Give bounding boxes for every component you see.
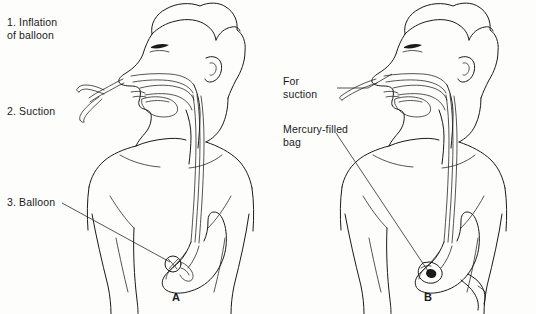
panel-letter-a: A — [172, 291, 180, 303]
face-profile-a — [119, 34, 152, 146]
panel-a-illustration — [77, 3, 254, 314]
ear-b — [458, 57, 475, 82]
label-balloon: 3. Balloon — [7, 196, 55, 209]
label-inflation-of-balloon: 1. Inflation of balloon — [7, 16, 57, 42]
torso-a — [87, 98, 253, 314]
mouth-a — [131, 91, 146, 97]
panel-letter-b: B — [424, 291, 432, 303]
leader-balloon — [62, 203, 170, 262]
airway-a — [131, 74, 200, 164]
hair-a — [152, 3, 246, 98]
medical-illustration: .ln { fill:none; stroke:#1a1a1a; stroke-… — [0, 0, 536, 314]
figure-container: .ln { fill:none; stroke:#1a1a1a; stroke-… — [0, 0, 536, 314]
panel-b-illustration — [340, 3, 507, 314]
eye-b — [403, 44, 422, 52]
label-suction: 2. Suction — [7, 105, 55, 118]
nasogastric-tube-external-a — [77, 79, 124, 122]
nasogastric-tube-external-b — [340, 79, 377, 100]
label-for-suction: For suction — [283, 75, 317, 101]
eye-a — [150, 44, 169, 52]
duodenum-b — [461, 274, 486, 310]
mouth-b — [384, 91, 399, 97]
mercury-filled-bag-b — [418, 262, 442, 283]
hair-b — [405, 3, 499, 98]
label-mercury-filled-bag: Mercury-filled bag — [283, 123, 348, 149]
face-profile-b — [372, 34, 405, 146]
esophageal-tube-b — [444, 95, 457, 243]
leader-mercury-bag — [336, 133, 428, 271]
gastric-balloon-a — [165, 256, 193, 281]
esophageal-tube-a — [191, 95, 204, 243]
ear-a — [205, 57, 222, 82]
airway-b — [384, 74, 453, 164]
